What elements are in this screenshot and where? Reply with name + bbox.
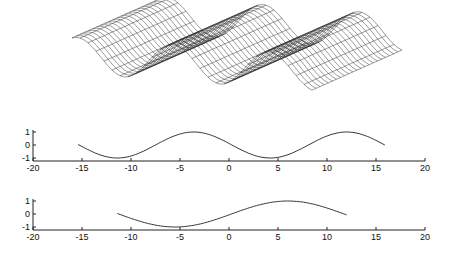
x-tick-label: 10 (322, 232, 332, 242)
x-tick-label: -10 (124, 163, 137, 173)
x-tick-label: 0 (226, 232, 231, 242)
y-tick-label: -1 (22, 153, 30, 163)
y-tick-label: 0 (25, 140, 30, 150)
x-tick-label: 10 (322, 163, 332, 173)
surface-mesh-plot (72, 0, 402, 90)
x-tick-label: -5 (176, 232, 184, 242)
x-tick-label: -20 (26, 163, 39, 173)
x-tick-label: 5 (275, 163, 280, 173)
x-tick-label: 15 (371, 232, 381, 242)
x-tick-label: 5 (275, 232, 280, 242)
x-tick-label: 20 (420, 232, 430, 242)
x-tick-label: -20 (26, 232, 39, 242)
x-tick-label: -5 (176, 163, 184, 173)
x-tick-label: -10 (124, 232, 137, 242)
data-curve (117, 201, 346, 227)
x-tick-label: 0 (226, 163, 231, 173)
mesh-lines (72, 0, 402, 90)
data-curve (78, 132, 385, 158)
line-plot-1: -20-15-10-505101520-101 (22, 127, 430, 173)
y-tick-label: 1 (25, 127, 30, 137)
x-tick-label: -15 (75, 232, 88, 242)
x-tick-label: -15 (75, 163, 88, 173)
x-tick-label: 20 (420, 163, 430, 173)
y-tick-label: -1 (22, 222, 30, 232)
y-tick-label: 0 (25, 209, 30, 219)
x-tick-label: 15 (371, 163, 381, 173)
figure: -20-15-10-505101520-101 -20-15-10-505101… (0, 0, 452, 257)
y-tick-label: 1 (25, 196, 30, 206)
line-plot-2: -20-15-10-505101520-101 (22, 196, 430, 242)
